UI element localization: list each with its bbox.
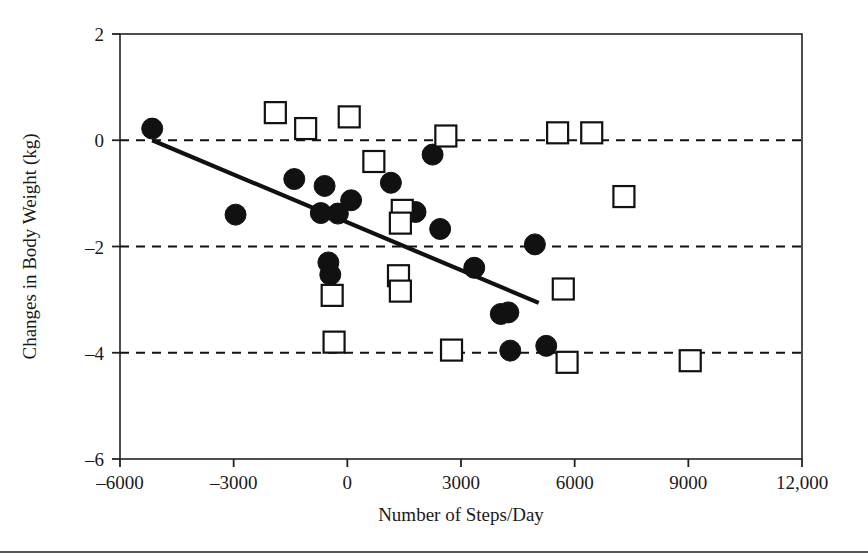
- data-point-circle-14: [320, 264, 341, 285]
- y-axis-title: Changes in Body Weight (kg): [19, 133, 41, 359]
- x-tick-label-6: 12,000: [776, 472, 828, 493]
- data-point-circle-16: [498, 302, 519, 323]
- y-tick-label-2: –2: [84, 237, 104, 258]
- data-point-square-15: [441, 340, 462, 361]
- data-point-square-11: [390, 281, 411, 302]
- data-point-square-17: [680, 350, 701, 371]
- x-tick-label-0: –6000: [95, 472, 144, 493]
- x-axis-title: Number of Steps/Day: [378, 504, 544, 525]
- data-point-circle-6: [341, 190, 362, 211]
- y-tick-label-0: 2: [95, 24, 105, 45]
- data-point-square-7: [613, 186, 634, 207]
- data-point-circle-17: [536, 335, 557, 356]
- data-point-square-4: [581, 122, 602, 143]
- scatter-plot-figure: 20–2–4–6–6000–3000030006000900012,000Num…: [0, 0, 868, 560]
- data-point-square-3: [547, 122, 568, 143]
- data-point-square-13: [322, 285, 343, 306]
- data-point-square-9: [390, 213, 411, 234]
- data-point-square-5: [435, 126, 456, 147]
- x-tick-label-5: 9000: [669, 472, 707, 493]
- data-point-circle-7: [380, 172, 401, 193]
- data-point-circle-2: [284, 169, 305, 190]
- data-point-square-0: [265, 102, 286, 123]
- y-tick-label-3: –4: [84, 343, 105, 364]
- data-point-square-14: [324, 332, 345, 353]
- data-point-circle-18: [500, 340, 521, 361]
- y-tick-label-4: –6: [84, 449, 104, 470]
- x-tick-label-4: 6000: [556, 472, 594, 493]
- data-point-circle-11: [464, 257, 485, 278]
- data-point-square-2: [339, 106, 360, 127]
- data-point-circle-10: [430, 218, 451, 239]
- x-tick-label-2: 0: [343, 472, 353, 493]
- data-point-circle-12: [524, 234, 545, 255]
- data-point-square-6: [363, 151, 384, 172]
- data-point-circle-0: [142, 118, 163, 139]
- y-tick-label-1: 0: [95, 130, 105, 151]
- data-point-circle-3: [314, 175, 335, 196]
- x-tick-label-1: –3000: [209, 472, 258, 493]
- x-tick-label-3: 3000: [442, 472, 480, 493]
- data-point-circle-1: [225, 204, 246, 225]
- data-point-square-1: [295, 118, 316, 139]
- data-point-square-16: [557, 352, 578, 373]
- plot-canvas: 20–2–4–6–6000–3000030006000900012,000Num…: [0, 0, 868, 560]
- data-point-square-12: [553, 279, 574, 300]
